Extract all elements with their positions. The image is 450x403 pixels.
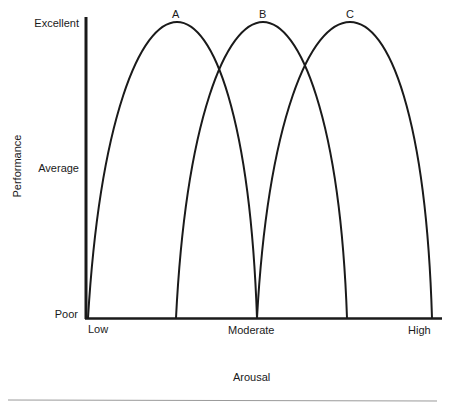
- bottom-rule: [8, 400, 437, 401]
- curve-a: [88, 22, 257, 318]
- x-tick-high: High: [408, 324, 431, 336]
- x-tick-low: Low: [88, 323, 108, 335]
- y-tick-excellent: Excellent: [9, 17, 79, 29]
- curve-label-a: A: [172, 8, 179, 20]
- y-tick-poor: Poor: [8, 308, 78, 320]
- chart-canvas: [0, 0, 450, 403]
- y-axis-title: Performance: [11, 131, 23, 201]
- curve-label-c: C: [346, 8, 354, 20]
- x-axis-title: Arousal: [233, 371, 270, 383]
- curve-label-b: B: [259, 8, 266, 20]
- x-tick-moderate: Moderate: [228, 324, 274, 336]
- curve-b: [176, 22, 347, 318]
